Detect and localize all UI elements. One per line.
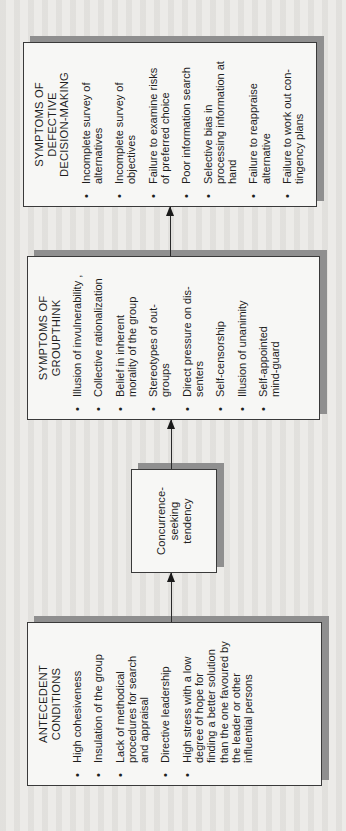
bullet-icon: • <box>114 397 139 411</box>
bullet-icon: • <box>71 397 83 411</box>
list-item: • Collective rationalization <box>92 265 104 411</box>
list-item: • Incomplete survey of objectives <box>113 51 138 198</box>
bullet-icon: • <box>92 397 104 411</box>
concurrence-seeking-box: Concurrence- seeking tendency <box>131 469 217 573</box>
groupthink-symptoms-box: SYMPTOMS OF GROUPTHINK • Illusion of inv… <box>27 256 320 420</box>
arrow-antecedent-to-concurrence <box>171 573 172 622</box>
defective-decision-making-title: SYMPTOMS OF DEFECTIVE DECISION-MAKING <box>33 51 71 198</box>
list-item-text: Directive leadership <box>159 666 171 763</box>
bullet-icon: • <box>214 397 226 411</box>
list-item: • Directive leadership <box>159 631 171 777</box>
bullet-icon: • <box>247 184 272 198</box>
groupthink-diagram: ANTECEDENT CONDITIONS • High cohesivenes… <box>0 0 346 831</box>
bullet-icon: • <box>236 397 248 411</box>
bullet-icon: • <box>257 397 282 411</box>
list-item-text: Self-censorship <box>214 321 226 397</box>
arrowhead-icon <box>166 206 174 216</box>
list-item-text: Poor information search <box>180 67 192 184</box>
bullet-icon: • <box>181 397 206 411</box>
list-item-text: Illusion of unanimity <box>236 300 248 397</box>
list-item-text: Illusion of invulnerability , <box>71 275 83 397</box>
list-item-text: High cohesiveness <box>71 671 83 763</box>
list-item-text: Failure to reappraise alternative <box>247 83 272 184</box>
bullet-icon: • <box>92 763 104 777</box>
list-item: • Belief in inherent morality of the gro… <box>114 265 139 411</box>
list-item: • Illusion of unanimity <box>236 265 248 411</box>
list-item-text: Lack of methodical procedures for search… <box>114 656 151 763</box>
list-item-text: High stress with a low degree of hope fo… <box>181 641 255 763</box>
bullet-icon: • <box>147 184 172 198</box>
list-item: • Incomplete survey of alternatives <box>80 51 105 198</box>
list-item: • High stress with a low degree of hope … <box>181 631 255 777</box>
list-item-text: Incomplete survey of objectives <box>113 83 138 185</box>
list-item-text: Belief in inherent morality of the group <box>114 297 139 397</box>
list-item: • Poor information search <box>180 51 192 198</box>
bullet-icon: • <box>80 184 105 198</box>
list-item: • Illusion of invulnerability , <box>71 265 83 411</box>
list-item: • Failure to examine risks of preferred … <box>147 51 172 198</box>
list-item-text: Collective rationalization <box>92 278 104 397</box>
list-item: • High cohesiveness <box>71 631 83 777</box>
bullet-icon: • <box>181 763 255 777</box>
list-item-text: Failure to examine risks of preferred ch… <box>147 68 172 184</box>
bullet-icon: • <box>202 184 239 198</box>
arrowhead-icon <box>167 572 175 582</box>
bullet-icon: • <box>113 184 138 198</box>
list-item: • Failure to reappraise alternative <box>247 51 272 198</box>
antecedent-conditions-box: ANTECEDENT CONDITIONS • High cohesivenes… <box>27 622 322 786</box>
arrowhead-icon <box>167 419 175 429</box>
list-item-text: Insulation of the group <box>92 654 104 763</box>
list-item-text: Incomplete survey of alternatives <box>80 83 105 185</box>
arrow-concurrence-to-groupthink <box>171 420 172 469</box>
list-item: • Stereotypes of out- groups <box>147 265 172 411</box>
bullet-icon: • <box>159 763 171 777</box>
list-item: • Self-appointed mind-guard <box>257 265 282 411</box>
list-item: • Direct pressure on dis- senters <box>181 265 206 411</box>
list-item-text: Stereotypes of out- groups <box>147 304 172 397</box>
bullet-icon: • <box>114 763 151 777</box>
list-item: • Selective bias in processing informati… <box>202 51 239 198</box>
list-item-text: Direct pressure on dis- senters <box>181 286 206 397</box>
list-item-text: Self-appointed mind-guard <box>257 326 282 397</box>
list-item-text: Failure to work out con- tingency plans <box>281 69 306 184</box>
bullet-icon: • <box>281 184 306 198</box>
concurrence-seeking-label: Concurrence- seeking tendency <box>141 478 193 564</box>
bullet-icon: • <box>71 763 83 777</box>
list-item-text: Selective bias in processing information… <box>202 61 239 184</box>
list-item: • Self-censorship <box>214 265 226 411</box>
list-item: • Failure to work out con- tingency plan… <box>281 51 306 198</box>
bullet-icon: • <box>180 184 192 198</box>
bullet-icon: • <box>147 397 172 411</box>
groupthink-symptoms-title: SYMPTOMS OF GROUPTHINK <box>37 265 62 411</box>
list-item: • Insulation of the group <box>92 631 104 777</box>
arrow-groupthink-to-defective <box>170 207 171 256</box>
list-item: • Lack of methodical procedures for sear… <box>114 631 151 777</box>
antecedent-conditions-title: ANTECEDENT CONDITIONS <box>37 631 62 777</box>
defective-decision-making-box: SYMPTOMS OF DEFECTIVE DECISION-MAKING • … <box>23 42 317 207</box>
